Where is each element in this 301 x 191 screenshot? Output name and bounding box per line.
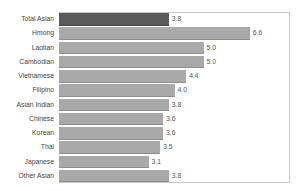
bar <box>59 42 204 55</box>
bar <box>59 27 250 40</box>
bar-row: Chinese3.6 <box>0 112 301 126</box>
bar-row: Filipino4.0 <box>0 83 301 97</box>
bar <box>59 13 169 26</box>
bar-row: Laotian5.0 <box>0 41 301 55</box>
value-label: 6.6 <box>253 26 262 40</box>
bar-row: Total Asian3.8 <box>0 12 301 26</box>
value-label: 3.5 <box>163 140 172 154</box>
bar <box>59 127 163 140</box>
value-label: 3.8 <box>172 12 181 26</box>
value-label: 4.4 <box>189 69 198 83</box>
bar-row: Other Asian3.8 <box>0 169 301 183</box>
value-label: 3.6 <box>166 126 175 140</box>
value-label: 3.8 <box>172 169 181 183</box>
category-label: Chinese <box>29 112 54 126</box>
bar-row: Hmong6.6 <box>0 26 301 40</box>
bar <box>59 156 149 169</box>
value-label: 5.0 <box>207 55 216 69</box>
bar-row: Korean3.6 <box>0 126 301 140</box>
category-label: Laotian <box>32 41 54 55</box>
value-label: 3.6 <box>166 112 175 126</box>
category-label: Total Asian <box>21 12 54 26</box>
bar <box>59 56 204 69</box>
bar-row: Asian Indian3.8 <box>0 98 301 112</box>
category-label: Vietnamese <box>18 69 54 83</box>
bar <box>59 141 160 154</box>
bar <box>59 170 169 183</box>
category-label: Filipino <box>32 83 54 97</box>
bar <box>59 113 163 126</box>
category-label: Korean <box>32 126 54 140</box>
value-label: 5.0 <box>207 41 216 55</box>
category-label: Other Asian <box>18 169 54 183</box>
bar-row: Cambodian5.0 <box>0 55 301 69</box>
bar <box>59 84 175 97</box>
value-label: 3.1 <box>152 155 161 169</box>
bar-row: Japanese3.1 <box>0 155 301 169</box>
category-label: Hmong <box>32 26 54 40</box>
category-label: Cambodian <box>19 55 54 69</box>
bar-row: Thai3.5 <box>0 140 301 154</box>
category-label: Asian Indian <box>17 98 54 112</box>
bar <box>59 99 169 112</box>
value-label: 3.8 <box>172 98 181 112</box>
category-label: Japanese <box>25 155 54 169</box>
value-label: 4.0 <box>178 83 187 97</box>
bar <box>59 70 186 83</box>
bar-row: Vietnamese4.4 <box>0 69 301 83</box>
category-label: Thai <box>41 140 54 154</box>
